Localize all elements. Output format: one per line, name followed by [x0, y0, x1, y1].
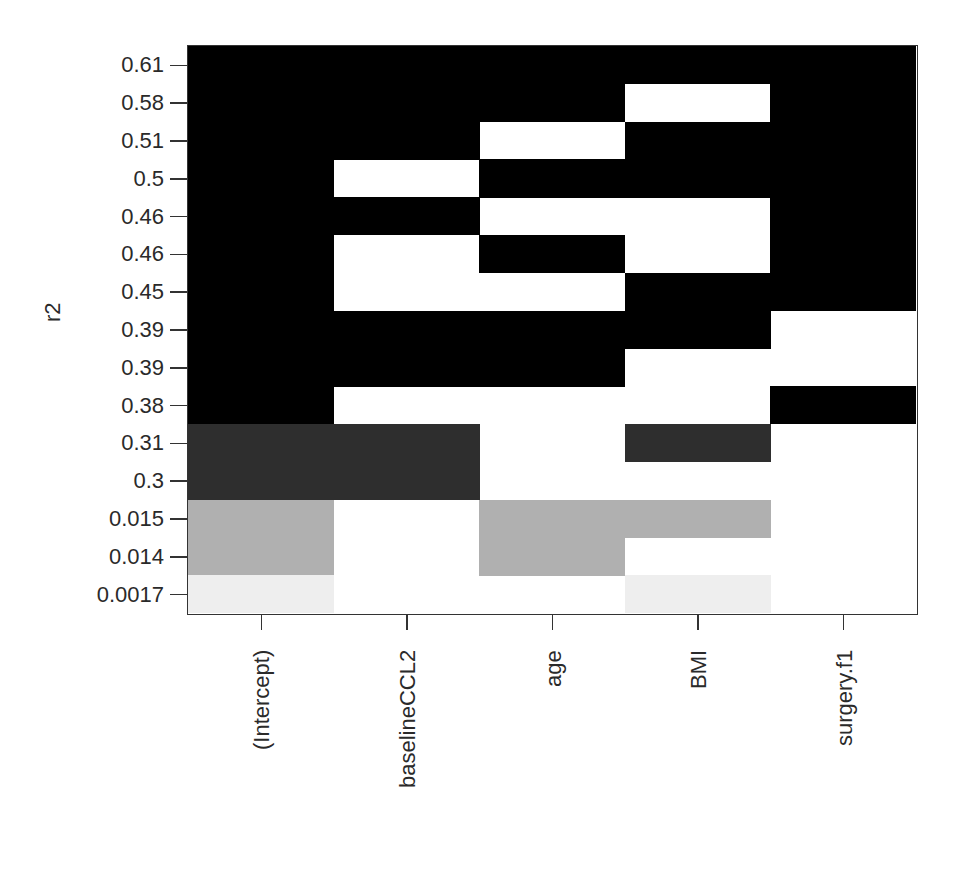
- x-tick: [843, 615, 845, 630]
- heatmap-cell: [625, 311, 771, 349]
- heatmap-cell: [334, 311, 480, 349]
- y-tick-label: 0.38: [121, 395, 164, 417]
- y-tick: [170, 254, 187, 256]
- heatmap-cell: [770, 273, 916, 311]
- heatmap-cell: [770, 386, 916, 424]
- y-tick: [170, 405, 187, 407]
- y-tick-label: 0.39: [121, 357, 164, 379]
- heatmap-cell: [770, 46, 916, 84]
- y-tick: [170, 140, 187, 142]
- heatmap-cell: [479, 500, 625, 538]
- y-tick: [170, 216, 187, 218]
- x-tick-label: surgery.f1: [832, 650, 858, 746]
- y-tick-label: 0.46: [121, 243, 164, 265]
- y-tick: [170, 556, 187, 558]
- y-tick-label: 0.5: [133, 168, 164, 190]
- heatmap-cell: [188, 46, 334, 84]
- y-tick-label: 0.3: [133, 470, 164, 492]
- heatmap-cell: [479, 46, 625, 84]
- heatmap-cell: [334, 348, 480, 386]
- heatmap-cell: [479, 537, 625, 575]
- heatmap-cell: [188, 84, 334, 122]
- heatmap-cell: [625, 273, 771, 311]
- heatmap-cell: [188, 462, 334, 500]
- heatmap-cell: [479, 311, 625, 349]
- heatmap-cell: [188, 273, 334, 311]
- y-tick-label: 0.014: [109, 546, 164, 568]
- y-axis-title: r2: [40, 302, 66, 322]
- y-tick: [170, 102, 187, 104]
- heatmap-cell: [334, 46, 480, 84]
- y-tick: [170, 367, 187, 369]
- heatmap-cell: [625, 575, 771, 613]
- y-tick-label: 0.31: [121, 432, 164, 454]
- y-tick: [170, 178, 187, 180]
- heatmap-cell: [625, 424, 771, 462]
- y-tick: [170, 65, 187, 67]
- heatmap-cell: [188, 235, 334, 273]
- x-tick-label: (Intercept): [249, 650, 275, 750]
- heatmap-cell: [479, 235, 625, 273]
- y-tick: [170, 480, 187, 482]
- y-tick-label: 0.015: [109, 508, 164, 530]
- heatmap-cell: [625, 122, 771, 160]
- y-tick-label: 0.51: [121, 130, 164, 152]
- y-tick: [170, 329, 187, 331]
- x-tick-label: BMI: [686, 650, 712, 689]
- heatmap-cell: [479, 159, 625, 197]
- y-tick-label: 0.39: [121, 319, 164, 341]
- x-tick-label: baselineCCL2: [395, 650, 421, 788]
- heatmap-cell: [188, 424, 334, 462]
- x-tick: [406, 615, 408, 630]
- heatmap-cell: [334, 424, 480, 462]
- heatmap-cell: [188, 386, 334, 424]
- heatmap-cell: [334, 462, 480, 500]
- heatmap-cell: [334, 122, 480, 160]
- heatmap-cell: [479, 84, 625, 122]
- heatmap-cell: [625, 159, 771, 197]
- plot-area: [187, 45, 918, 615]
- y-tick: [170, 594, 187, 596]
- heatmap-cell: [188, 537, 334, 575]
- x-tick: [697, 615, 699, 630]
- heatmap-cell: [625, 500, 771, 538]
- x-tick: [552, 615, 554, 630]
- y-tick-label: 0.45: [121, 281, 164, 303]
- y-tick: [170, 443, 187, 445]
- y-tick-label: 0.46: [121, 206, 164, 228]
- y-tick-label: 0.0017: [97, 584, 164, 606]
- heatmap-cell: [188, 575, 334, 613]
- y-tick: [170, 291, 187, 293]
- heatmap-cell: [188, 197, 334, 235]
- heatmap-cell: [770, 235, 916, 273]
- x-tick-label: age: [541, 650, 567, 687]
- heatmap-cell: [188, 122, 334, 160]
- heatmap-cell: [334, 197, 480, 235]
- heatmap-cell: [188, 311, 334, 349]
- heatmap-cell: [188, 348, 334, 386]
- heatmap-cell: [625, 46, 771, 84]
- heatmap-cell: [770, 159, 916, 197]
- heatmap-cell: [334, 84, 480, 122]
- heatmap-cell: [479, 348, 625, 386]
- heatmap-cell: [770, 197, 916, 235]
- heatmap-cell: [770, 84, 916, 122]
- y-tick: [170, 518, 187, 520]
- y-tick-label: 0.61: [121, 54, 164, 76]
- heatmap-cell: [188, 500, 334, 538]
- heatmap-cell: [770, 122, 916, 160]
- heatmap-cell: [188, 159, 334, 197]
- y-tick-label: 0.58: [121, 92, 164, 114]
- x-tick: [261, 615, 263, 630]
